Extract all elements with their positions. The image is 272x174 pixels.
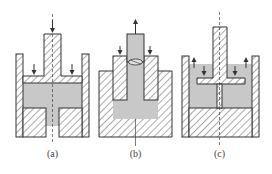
base xyxy=(189,108,252,137)
panel-label: (c) xyxy=(214,148,225,160)
down-arrow-icon xyxy=(32,64,37,75)
panel-label: (b) xyxy=(130,148,142,160)
down-arrow-icon xyxy=(148,46,153,55)
right-wall xyxy=(82,54,89,137)
sleeve-right xyxy=(144,56,158,100)
panel-a: (a) xyxy=(16,14,89,160)
fluid-region xyxy=(23,83,86,108)
down-arrow-icon xyxy=(118,46,123,55)
left-wall xyxy=(182,56,189,137)
fluid-channel xyxy=(127,62,144,100)
die-right xyxy=(59,108,82,137)
diagram-canvas: (a) (b) xyxy=(0,0,272,174)
down-arrow-icon xyxy=(70,64,75,75)
panel-c: (c) xyxy=(182,12,259,160)
down-arrow-icon xyxy=(50,20,55,33)
left-wall xyxy=(16,54,23,137)
panel-label: (a) xyxy=(47,148,58,160)
right-wall xyxy=(252,56,259,137)
up-arrow-icon xyxy=(133,19,138,34)
die-left xyxy=(23,108,46,137)
ram xyxy=(127,34,144,62)
sleeve-left xyxy=(113,56,127,100)
panel-b: (b) xyxy=(99,19,172,160)
fluid-region xyxy=(113,100,158,119)
